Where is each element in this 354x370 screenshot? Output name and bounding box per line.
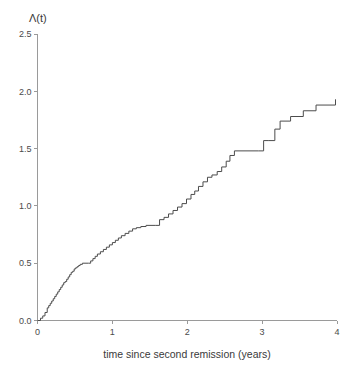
cumulative-hazard-step-curve bbox=[38, 99, 336, 320]
y-axis-ticks: 0.00.51.01.52.02.5 bbox=[19, 29, 38, 326]
cumulative-hazard-figure: Λ(t) 0.00.51.01.52.02.5 01234 time since… bbox=[0, 0, 354, 370]
x-axis-label: time since second remission (years) bbox=[103, 348, 270, 360]
x-tick-label: 2 bbox=[185, 327, 190, 337]
x-tick-label: 0 bbox=[35, 327, 40, 337]
plot-canvas: Λ(t) 0.00.51.01.52.02.5 01234 time since… bbox=[0, 0, 354, 370]
y-tick-label: 1.5 bbox=[19, 144, 32, 154]
x-axis-ticks: 01234 bbox=[35, 321, 340, 337]
y-tick-label: 0.0 bbox=[19, 316, 32, 326]
y-tick-label: 0.5 bbox=[19, 258, 32, 268]
x-tick-label: 4 bbox=[334, 327, 339, 337]
y-tick-label: 2.0 bbox=[19, 87, 32, 97]
y-axis-label: Λ(t) bbox=[29, 12, 47, 24]
y-tick-label: 1.0 bbox=[19, 201, 32, 211]
x-tick-label: 3 bbox=[260, 327, 265, 337]
y-tick-label: 2.5 bbox=[19, 29, 32, 39]
x-tick-label: 1 bbox=[110, 327, 115, 337]
